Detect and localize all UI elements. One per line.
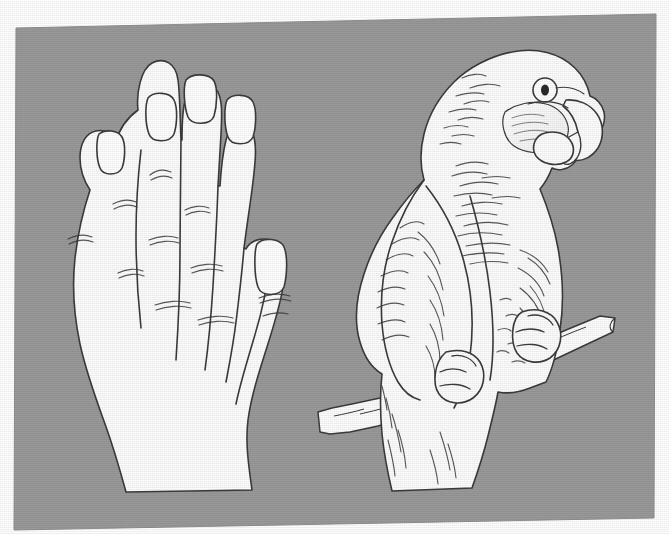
gray-panel [0,0,669,534]
parrot-left-foot [435,350,484,402]
lower-mandible [534,132,574,164]
nail-ring [225,95,256,143]
illustration-svg [0,0,669,534]
parrot-eye-pupil [541,85,549,96]
nail-index [184,75,216,123]
illustration-canvas: Hand and macaw parrot scale comparison l… [0,0,669,534]
right-foot-grip [513,310,561,362]
parrot-right-foot [513,310,561,362]
nail-middle [146,93,177,140]
nail-thumb [255,239,287,294]
nail-little [97,131,125,174]
left-foot-grip [435,350,484,402]
